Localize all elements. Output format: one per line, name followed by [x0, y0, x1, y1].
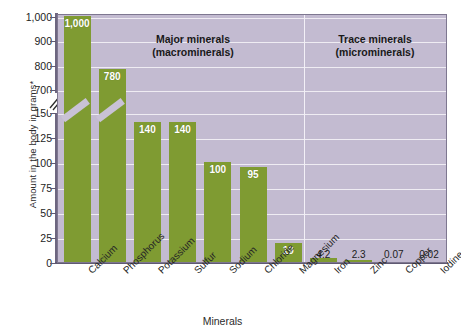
- y-tick-label: 150: [18, 108, 52, 118]
- y-tickmark: [50, 238, 56, 239]
- x-tick-label-sodium: Sodium: [227, 268, 235, 276]
- mineral-amount-bar-chart: Amount in the body in grams* 1,000900800…: [0, 0, 461, 335]
- x-tick-label-zinc: Zinc: [368, 268, 376, 276]
- x-tick-label-iodine: Iodine: [438, 268, 446, 276]
- y-tickmark: [50, 138, 56, 139]
- major-minerals-label: Major minerals (macrominerals): [118, 33, 268, 58]
- y-tickmark: [50, 163, 56, 164]
- trace-minerals-label: Trace minerals (microminerals): [310, 33, 440, 58]
- gridline: [58, 67, 446, 68]
- gridline: [58, 18, 446, 19]
- y-tick-label: 25: [18, 233, 52, 243]
- section-divider: [304, 15, 305, 262]
- bar-value-label: 1,000: [64, 18, 91, 29]
- x-tick-label-copper: Copper: [403, 268, 411, 276]
- bar-calcium: 1,000: [64, 16, 91, 262]
- y-tick-label: 700: [18, 85, 52, 95]
- x-tick-label-phosphorus: Phosphorus: [121, 268, 129, 276]
- y-tickmark: [50, 263, 56, 264]
- y-tickmark: [50, 113, 56, 114]
- y-tick-label: 50: [18, 208, 52, 218]
- bar-value-label: 780: [99, 71, 126, 82]
- y-tick-label: 900: [18, 36, 52, 46]
- y-tickmark: [50, 41, 56, 42]
- plot-area: 1,00078014014010095194.22.30.070.02Major…: [57, 14, 447, 263]
- y-tickmark: [50, 213, 56, 214]
- y-tick-label: 75: [18, 183, 52, 193]
- bar-value-label: 95: [240, 169, 267, 180]
- bar-value-label: 100: [204, 164, 231, 175]
- x-tick-label-iron: Iron: [332, 268, 340, 276]
- y-tick-label: 125: [18, 133, 52, 143]
- y-tick-label: 0: [18, 258, 52, 268]
- y-tickmark: [50, 90, 56, 91]
- x-tick-label-calcium: Calcium: [86, 268, 94, 276]
- x-tick-label-sulfur: Sulfur: [192, 268, 200, 276]
- y-tick-label: 800: [18, 61, 52, 71]
- bar-value-label: 140: [169, 124, 196, 135]
- y-tickmark: [50, 66, 56, 67]
- y-axis-tick-labels: 1,0009008007001501251007550250: [12, 0, 52, 335]
- x-axis-title: Minerals: [0, 315, 445, 327]
- plot-inner: 1,00078014014010095194.22.30.070.02Major…: [58, 15, 446, 262]
- x-tick-label-chloride: Chloride: [262, 268, 270, 276]
- bar-sodium: 100: [204, 162, 231, 262]
- y-tick-label: 100: [18, 158, 52, 168]
- y-tickmark: [50, 188, 56, 189]
- x-tick-label-potassium: Potassium: [156, 268, 164, 276]
- y-tickmark: [50, 17, 56, 18]
- y-tick-label: 1,000: [18, 12, 52, 22]
- x-tick-label-magnesium: Magnesium: [297, 268, 305, 276]
- bar-value-label: 140: [134, 124, 161, 135]
